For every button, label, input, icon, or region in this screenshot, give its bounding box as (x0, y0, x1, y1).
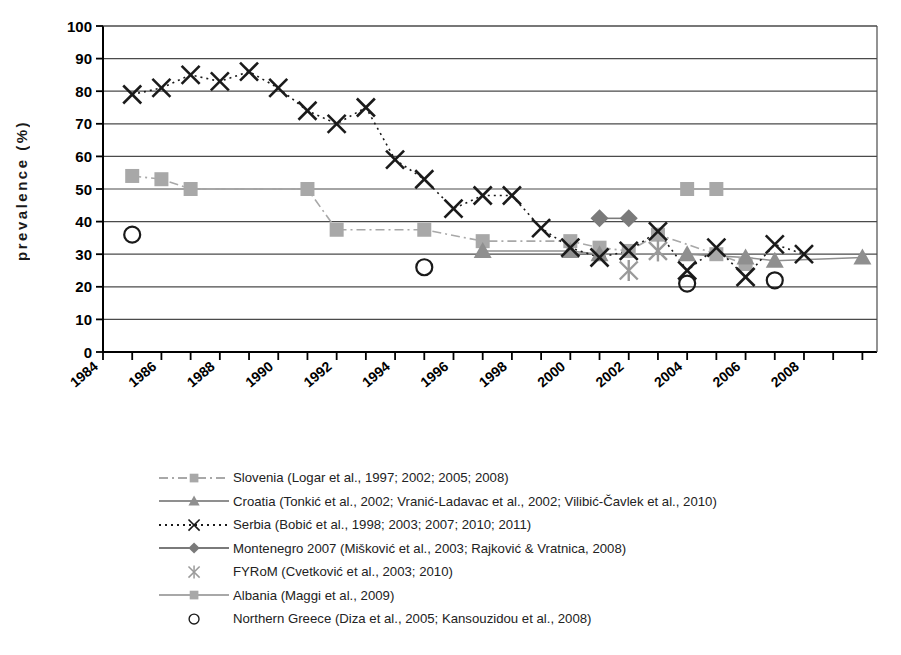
x-tick-label-group: 2008 (768, 358, 802, 390)
data-point-serbia (415, 170, 433, 188)
data-point-serbia (269, 79, 287, 97)
data-point-albania (709, 182, 723, 196)
data-point-serbia (298, 102, 316, 120)
legend-key-icon (155, 585, 233, 605)
data-point-fyrom (649, 240, 667, 261)
data-point-slovenia (330, 223, 344, 237)
x-tick-label-group: 1996 (417, 358, 451, 390)
x-tick-label-group: 2006 (709, 358, 743, 390)
data-point-croatia (853, 248, 871, 264)
legend-item-northern-greece[interactable]: Northern Greece (Diza et al., 2005; Kans… (155, 607, 775, 631)
legend-marker-icon (155, 562, 233, 582)
data-point-croatia (853, 248, 871, 264)
y-tick-label: 50 (75, 181, 92, 198)
data-point-northern-greece (124, 227, 140, 243)
x-tick-label-group: 1984 (67, 358, 101, 390)
x-tick-label: 1994 (359, 358, 393, 390)
x-tick-label: 1984 (67, 358, 101, 390)
data-point-slovenia (125, 169, 139, 183)
series-line-serbia (132, 72, 804, 277)
legend-marker-icon (155, 609, 233, 629)
data-point-northern-greece (416, 259, 432, 275)
data-point-northern-greece (767, 272, 783, 288)
legend-marker-icon (155, 468, 233, 488)
data-point-montenegro-2007 (620, 209, 638, 227)
x-tick-label-group: 1990 (242, 358, 276, 390)
data-point-croatia (678, 245, 696, 261)
x-tick-label-group: 1998 (476, 358, 510, 390)
y-tick-label: 80 (75, 83, 92, 100)
legend-marker-icon (155, 491, 233, 511)
data-point-serbia (182, 66, 200, 84)
data-point-serbia (240, 63, 258, 81)
x-tick-label: 2002 (593, 358, 627, 390)
data-point-slovenia (154, 172, 168, 186)
legend-key-icon (155, 538, 233, 558)
legend-key-icon (155, 515, 233, 535)
x-tick-label-group: 2004 (651, 358, 685, 390)
legend-item-fyrom[interactable]: FYRoM (Cvetković et al., 2003; 2010) (155, 560, 775, 584)
data-point-slovenia (300, 182, 314, 196)
data-point-northern-greece (767, 272, 783, 288)
chart-legend: Slovenia (Logar et al., 1997; 2002; 2005… (155, 466, 775, 631)
x-tick-label: 2004 (651, 358, 685, 390)
data-point-slovenia (184, 182, 198, 196)
legend-marker (190, 591, 199, 600)
legend-label: Montenegro 2007 (Mišković et al., 2003; … (233, 541, 626, 556)
legend-marker-icon (155, 585, 233, 605)
legend-label: Slovenia (Logar et al., 1997; 2002; 2005… (233, 470, 509, 485)
legend-marker (189, 614, 199, 624)
y-tick-label: 60 (75, 148, 92, 165)
data-point-albania (709, 182, 723, 196)
legend-item-slovenia[interactable]: Slovenia (Logar et al., 1997; 2002; 2005… (155, 466, 775, 490)
y-tick-label: 10 (75, 311, 92, 328)
data-point-slovenia (417, 223, 431, 237)
legend-key-icon (155, 491, 233, 511)
legend-item-croatia[interactable]: Croatia (Tonkić et al., 2002; Vranić-Lad… (155, 490, 775, 514)
x-tick-label: 1996 (417, 358, 451, 390)
legend-marker (188, 565, 199, 578)
legend-item-albania[interactable]: Albania (Maggi et al., 2009) (155, 584, 775, 608)
data-point-serbia (766, 235, 784, 253)
x-tick-label-group: 1988 (184, 358, 218, 390)
data-point-slovenia (154, 172, 168, 186)
data-point-slovenia (300, 182, 314, 196)
x-tick-label: 1998 (476, 358, 510, 390)
x-tick-label-group: 1994 (359, 358, 393, 390)
y-tick-label: 100 (67, 18, 92, 35)
x-tick-label-group: 1992 (300, 358, 334, 390)
legend-label: Northern Greece (Diza et al., 2005; Kans… (233, 611, 591, 626)
data-point-serbia (357, 99, 375, 117)
data-point-northern-greece (679, 276, 695, 292)
y-tick-label: 0 (84, 344, 92, 361)
data-point-serbia (152, 79, 170, 97)
y-tick-label: 30 (75, 246, 92, 263)
legend-marker-icon (155, 538, 233, 558)
data-point-serbia (678, 262, 696, 280)
data-point-montenegro-2007 (591, 209, 609, 227)
data-point-northern-greece (416, 259, 432, 275)
x-tick-label: 1990 (242, 358, 276, 390)
legend-marker (188, 543, 199, 554)
legend-key-icon (155, 562, 233, 582)
x-tick-label-group: 2000 (534, 358, 568, 390)
legend-key-icon (155, 468, 233, 488)
data-point-slovenia (184, 182, 198, 196)
x-tick-label: 2008 (768, 358, 802, 390)
legend-marker (190, 473, 199, 482)
data-point-fyrom (620, 260, 638, 281)
data-point-serbia (444, 200, 462, 218)
legend-key-icon (155, 609, 233, 629)
data-point-croatia (678, 245, 696, 261)
x-tick-label: 1992 (300, 358, 334, 390)
data-point-montenegro-2007 (591, 209, 609, 227)
data-point-serbia (211, 72, 229, 90)
legend-item-serbia[interactable]: Serbia (Bobić et al., 1998; 2003; 2007; … (155, 513, 775, 537)
data-point-slovenia (125, 169, 139, 183)
x-tick-label: 1988 (184, 358, 218, 390)
legend-item-montenegro-2007[interactable]: Montenegro 2007 (Mišković et al., 2003; … (155, 537, 775, 561)
x-tick-label: 1986 (125, 358, 159, 390)
legend-marker (188, 543, 199, 554)
data-point-slovenia (417, 223, 431, 237)
legend-label: Croatia (Tonkić et al., 2002; Vranić-Lad… (233, 494, 717, 509)
